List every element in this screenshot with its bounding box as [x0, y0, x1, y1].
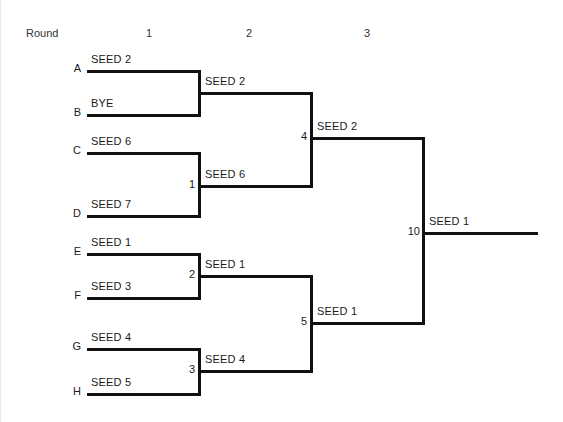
entrant-seed-b: BYE: [91, 97, 114, 109]
entrant-seed-h: SEED 5: [91, 376, 131, 388]
entrant-line-e: [87, 253, 201, 256]
round3-connector-final: [422, 137, 425, 325]
entrant-seed-d: SEED 7: [91, 198, 131, 210]
match-node-3: 3: [177, 363, 195, 375]
competitor-letter-f: F: [61, 289, 81, 301]
match-node-5: 5: [289, 315, 307, 327]
competitor-letter-h: H: [61, 385, 81, 397]
entrant-line-d: [87, 215, 201, 218]
champion-line: [422, 232, 538, 235]
round1-winner-line-ab: [198, 92, 313, 95]
entrant-line-c: [87, 152, 201, 155]
round1-winner-line-gh: [198, 370, 313, 373]
round2-winner-label-upper: SEED 2: [317, 120, 357, 132]
round1-winner-label-gh: SEED 4: [205, 353, 245, 365]
round-number-1: 1: [141, 27, 157, 39]
entrant-line-g: [87, 348, 201, 351]
entrant-line-a: [87, 70, 201, 73]
entrant-line-f: [87, 297, 201, 300]
competitor-letter-c: C: [61, 144, 81, 156]
round2-winner-line-lower: [310, 322, 425, 325]
competitor-letter-a: A: [61, 62, 81, 74]
round2-winner-label-lower: SEED 1: [317, 305, 357, 317]
entrant-line-b: [87, 114, 201, 117]
round1-winner-label-ef: SEED 1: [205, 258, 245, 270]
round-number-3: 3: [359, 27, 375, 39]
match-node-1: 1: [177, 178, 195, 190]
entrant-seed-e: SEED 1: [91, 236, 131, 248]
entrant-seed-g: SEED 4: [91, 331, 131, 343]
entrant-seed-f: SEED 3: [91, 280, 131, 292]
tournament-bracket-diagram: Round 1 2 3 A B C D E F G H SEED 2 BYE S…: [0, 0, 563, 422]
round1-winner-line-ef: [198, 275, 313, 278]
round1-winner-label-ab: SEED 2: [205, 75, 245, 87]
round-header-label: Round: [26, 27, 58, 39]
match-node-2: 2: [177, 268, 195, 280]
round1-winner-label-cd: SEED 6: [205, 168, 245, 180]
entrant-seed-a: SEED 2: [91, 53, 131, 65]
competitor-letter-e: E: [61, 245, 81, 257]
round2-winner-line-upper: [310, 137, 425, 140]
competitor-letter-d: D: [61, 207, 81, 219]
entrant-seed-c: SEED 6: [91, 135, 131, 147]
round-number-2: 2: [241, 27, 257, 39]
competitor-letter-b: B: [61, 106, 81, 118]
champion-label: SEED 1: [429, 215, 469, 227]
round2-connector-upper: [310, 92, 313, 188]
entrant-line-h: [87, 393, 201, 396]
round1-winner-line-cd: [198, 185, 313, 188]
competitor-letter-g: G: [61, 340, 81, 352]
match-node-10: 10: [400, 225, 420, 237]
match-node-4: 4: [289, 130, 307, 142]
